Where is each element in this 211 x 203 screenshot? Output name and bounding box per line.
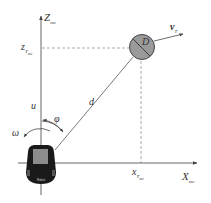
heading-u-label: u: [31, 101, 36, 111]
angle-phi-label: φ: [54, 114, 60, 124]
z-target-label: zTmc: [21, 42, 32, 56]
svg-text:Robot: Robot: [37, 178, 45, 182]
omega-arc: [24, 129, 50, 137]
x-target-label: xTmc: [132, 167, 144, 181]
target-d-label: D: [142, 37, 149, 47]
distance-label: d: [89, 97, 94, 107]
robot: Robot: [26, 145, 56, 184]
z-axis-label: Zmc: [44, 12, 56, 25]
velocity-arrow: [154, 34, 183, 41]
x-axis-label: Xmc: [182, 171, 195, 184]
velocity-label: vT: [170, 22, 177, 34]
omega-label: ω: [12, 128, 19, 138]
diagram-canvas: Robot Zmc Xmc zTmc xTmc D vT d u φ ω: [0, 0, 211, 203]
distance-line: [55, 57, 133, 150]
